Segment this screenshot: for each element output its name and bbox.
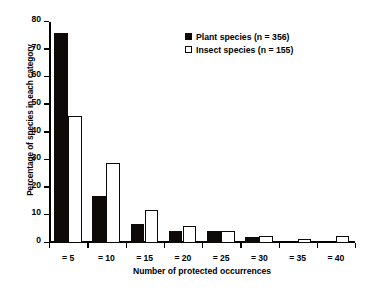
x-axis-tick bbox=[240, 243, 241, 248]
x-axis-tick-label: = 25 bbox=[213, 253, 230, 263]
bar-insect-20 bbox=[183, 226, 197, 243]
bar-plant-15 bbox=[131, 224, 145, 243]
legend-swatch-filled-square-icon bbox=[185, 33, 192, 40]
legend-swatch-open-square-icon bbox=[185, 46, 192, 53]
y-axis-tick-label: 10 bbox=[31, 207, 41, 217]
x-axis-tick bbox=[202, 243, 203, 248]
bar-insect-15 bbox=[145, 210, 159, 243]
y-axis-tick-label: 60 bbox=[31, 69, 41, 79]
legend-label-insect: Insect species (n = 155) bbox=[196, 45, 293, 55]
bar-plant-10 bbox=[92, 196, 106, 243]
bar-chart-figure: Percentage of species in each category 0… bbox=[0, 0, 366, 290]
y-axis-tick: 40 bbox=[44, 131, 49, 132]
x-axis-tick-label: = 20 bbox=[174, 253, 191, 263]
x-axis-tick bbox=[87, 243, 88, 248]
bar-plant-5 bbox=[54, 33, 68, 243]
x-axis-tick-label: = 10 bbox=[98, 253, 115, 263]
x-axis-tick-label: = 5 bbox=[62, 253, 74, 263]
x-axis-tick bbox=[355, 243, 356, 248]
bar-insect-35 bbox=[298, 239, 312, 243]
y-axis-tick-label: 30 bbox=[31, 152, 41, 162]
x-axis-tick-label: = 15 bbox=[136, 253, 153, 263]
legend-label-plant: Plant species (n = 356) bbox=[196, 32, 289, 42]
x-axis-tick bbox=[49, 243, 50, 248]
x-axis-tick bbox=[279, 243, 280, 248]
y-axis-tick-label: 70 bbox=[31, 42, 41, 52]
legend-item-plant: Plant species (n = 356) bbox=[185, 30, 293, 43]
y-axis-tick-label: 0 bbox=[36, 235, 41, 245]
y-axis-tick: 70 bbox=[44, 48, 49, 49]
y-axis-tick-label: 20 bbox=[31, 180, 41, 190]
x-axis-tick bbox=[164, 243, 165, 248]
bar-plant-30 bbox=[245, 237, 259, 243]
bar-insect-30 bbox=[259, 236, 273, 243]
y-axis-tick: 10 bbox=[44, 214, 49, 215]
x-axis-tick bbox=[126, 243, 127, 248]
bar-plant-20 bbox=[169, 231, 183, 243]
bar-insect-10 bbox=[106, 163, 120, 243]
bar-insect-40 bbox=[336, 236, 350, 243]
y-axis-tick: 60 bbox=[44, 76, 49, 77]
x-axis-tick-label: = 40 bbox=[327, 253, 344, 263]
bar-plant-25 bbox=[207, 231, 221, 243]
bar-insect-25 bbox=[221, 231, 235, 243]
x-axis-tick-label: = 35 bbox=[289, 253, 306, 263]
y-axis-tick: 20 bbox=[44, 186, 49, 187]
chart-legend: Plant species (n = 356) Insect species (… bbox=[185, 30, 293, 56]
y-axis-tick-label: 80 bbox=[31, 14, 41, 24]
x-axis-title: Number of protected occurrences bbox=[49, 266, 355, 276]
x-axis-tick bbox=[317, 243, 318, 248]
legend-item-insect: Insect species (n = 155) bbox=[185, 43, 293, 56]
y-axis-line bbox=[49, 22, 51, 243]
y-axis-tick-label: 40 bbox=[31, 125, 41, 135]
x-axis-tick-label: = 30 bbox=[251, 253, 268, 263]
y-axis-tick: 80 bbox=[44, 21, 49, 22]
bar-insect-5 bbox=[68, 116, 82, 243]
y-axis-tick: 50 bbox=[44, 103, 49, 104]
y-axis-tick: 30 bbox=[44, 159, 49, 160]
y-axis-tick-label: 50 bbox=[31, 97, 41, 107]
